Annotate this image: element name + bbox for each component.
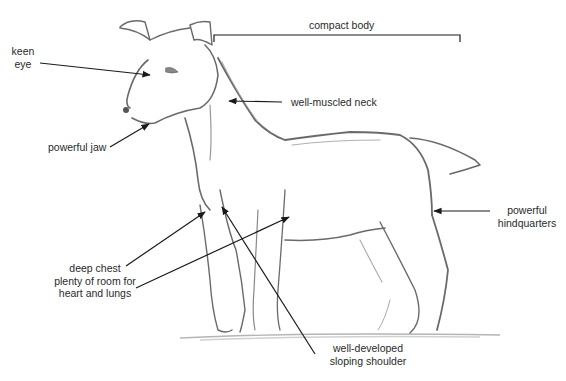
pointer-powerful-jaw (110, 124, 149, 147)
label-deep-chest-line1: deep chest (50, 262, 140, 275)
label-shoulder-line1: well-developed (318, 342, 418, 355)
label-hindquarters-line1: powerful (492, 204, 562, 217)
annotation-lines (40, 35, 490, 354)
pointer-well-muscled-neck (229, 101, 282, 102)
label-deep-chest-line3: heart and lungs (50, 287, 140, 300)
label-powerful-jaw: powerful jaw (48, 141, 106, 154)
pointer-sloping-shoulder (222, 207, 315, 354)
label-compact-body: compact body (309, 19, 374, 32)
label-hindquarters-line2: hindquarters (492, 217, 562, 230)
bracket-compact-body (214, 35, 460, 42)
label-shoulder-line2: sloping shoulder (318, 355, 418, 368)
dog-sketch (0, 0, 566, 381)
ground-line (180, 334, 500, 340)
dog-outline (120, 21, 480, 333)
label-keen-eye-line1: keen (6, 45, 40, 58)
label-keen-eye-line2: eye (6, 58, 40, 71)
dog-anatomy-diagram: keen eye powerful jaw compact body well-… (0, 0, 566, 381)
label-deep-chest-line2: plenty of room for (50, 275, 140, 288)
pointer-deep-chest (126, 212, 205, 266)
label-powerful-hindquarters: powerful hindquarters (492, 204, 562, 229)
pointer-keen-eye (40, 63, 150, 75)
label-deep-chest: deep chest plenty of room for heart and … (50, 262, 140, 300)
label-well-muscled-neck: well-muscled neck (291, 96, 377, 109)
label-sloping-shoulder: well-developed sloping shoulder (318, 342, 418, 367)
label-keen-eye: keen eye (6, 45, 40, 70)
